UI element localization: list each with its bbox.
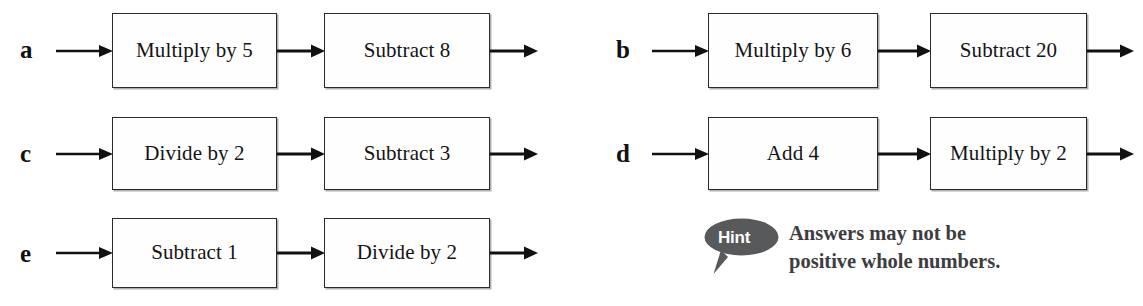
arrow-right-icon <box>56 244 114 262</box>
arrow-right-icon <box>1087 145 1135 163</box>
arrow-right-icon <box>56 145 114 163</box>
machine-box-e2: Divide by 2 <box>324 218 490 288</box>
chain-label-d: d <box>616 141 630 166</box>
machine-box-b1-label: Multiply by 6 <box>735 39 852 62</box>
chain-label-e: e <box>20 241 31 266</box>
arrow-right-icon <box>490 145 539 163</box>
chain-label-a: a <box>20 37 33 62</box>
chain-label-c: c <box>20 141 31 166</box>
arrow-right-icon <box>277 42 326 60</box>
machine-box-d2: Multiply by 2 <box>930 117 1087 190</box>
machine-box-c2-label: Subtract 3 <box>364 142 451 165</box>
arrow-right-icon <box>1087 42 1135 60</box>
machine-box-b1: Multiply by 6 <box>708 13 878 88</box>
hint-badge-label: Hint <box>718 228 750 248</box>
worksheet-canvas: a Multiply by 5 Subtract 8 b Multiply by… <box>0 0 1143 306</box>
hint-text-line-1: Answers may not be <box>789 219 1000 247</box>
machine-box-d2-label: Multiply by 2 <box>950 142 1067 165</box>
machine-box-c1-label: Divide by 2 <box>144 142 244 165</box>
arrow-right-icon <box>277 145 326 163</box>
arrow-right-icon <box>277 244 326 262</box>
machine-box-a2: Subtract 8 <box>324 13 490 88</box>
machine-box-d1-label: Add 4 <box>767 142 819 165</box>
machine-box-a2-label: Subtract 8 <box>364 39 451 62</box>
arrow-right-icon <box>878 42 932 60</box>
arrow-right-icon <box>490 42 539 60</box>
machine-box-c2: Subtract 3 <box>324 117 490 190</box>
machine-box-a1: Multiply by 5 <box>112 13 277 88</box>
machine-box-a1-label: Multiply by 5 <box>136 39 253 62</box>
machine-box-b2: Subtract 20 <box>930 13 1087 88</box>
hint-text: Answers may not be positive whole number… <box>789 219 1000 275</box>
machine-box-d1: Add 4 <box>708 117 878 190</box>
machine-box-e2-label: Divide by 2 <box>357 241 457 264</box>
hint-callout <box>700 214 800 284</box>
arrow-right-icon <box>652 42 710 60</box>
chain-label-b: b <box>616 37 630 62</box>
machine-box-c1: Divide by 2 <box>112 117 277 190</box>
arrow-right-icon <box>878 145 932 163</box>
arrow-right-icon <box>652 145 710 163</box>
arrow-right-icon <box>56 42 114 60</box>
machine-box-e1-label: Subtract 1 <box>151 241 238 264</box>
arrow-right-icon <box>490 244 539 262</box>
speech-bubble-icon <box>700 214 800 284</box>
machine-box-b2-label: Subtract 20 <box>960 39 1057 62</box>
machine-box-e1: Subtract 1 <box>112 218 277 288</box>
hint-text-line-2: positive whole numbers. <box>789 247 1000 275</box>
